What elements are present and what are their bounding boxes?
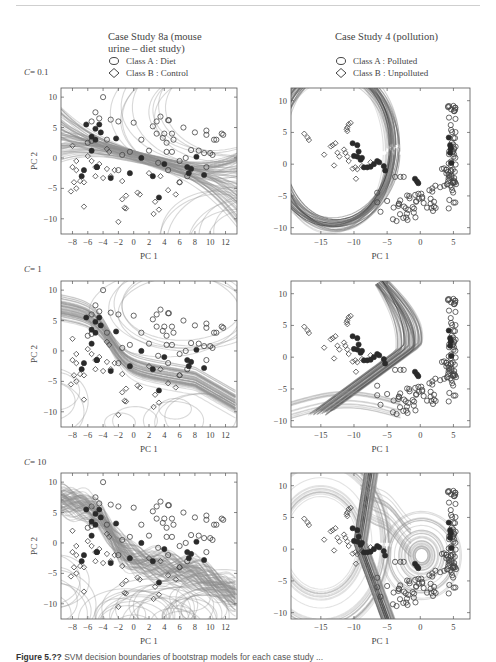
scatter-panel: −8−6−4−2024681012−10−50510PC 1PC 2 <box>21 88 257 274</box>
y-tick-label: −10 <box>274 416 287 426</box>
scatter-panel: −15−10−505−10−50510PC 1 <box>251 281 490 467</box>
x-tick-label: 2 <box>147 237 151 247</box>
y-tick-label: −5 <box>278 384 287 394</box>
y-tick-label: −5 <box>278 576 287 586</box>
legend-label: Class A : Polluted <box>353 55 417 67</box>
x-tick-label: −10 <box>347 237 360 247</box>
x-tick-label: −10 <box>347 622 360 632</box>
y-tick-label: −5 <box>48 376 57 386</box>
x-tick-label: 6 <box>177 622 181 632</box>
decision-boundaries <box>1 258 274 452</box>
page-top-rule <box>16 5 480 6</box>
x-tick-label: −8 <box>68 622 77 632</box>
scatter-panel: −15−10−505−10−50510PC 1 <box>251 473 490 659</box>
figure-caption: Figure 5.?? SVM decision boundaries of b… <box>16 652 323 662</box>
x-tick-label: 0 <box>418 237 422 247</box>
x-tick-label: −5 <box>383 622 392 632</box>
x-tick-label: −15 <box>314 430 327 440</box>
x-tick-label: −4 <box>99 430 109 440</box>
y-tick-label: 10 <box>279 289 288 299</box>
y-tick-label: 5 <box>53 123 57 133</box>
legend-item-class-b: Class B : Control <box>108 67 188 79</box>
y-tick-label: 10 <box>49 285 58 295</box>
legend-left: Class A : Diet Class B : Control <box>108 55 188 79</box>
column-title-line1: Case Study 8a (mouse <box>108 31 202 43</box>
y-tick-label: −10 <box>44 407 57 417</box>
column-title-right: Case Study 4 (pollution) <box>335 31 438 43</box>
y-tick-label: −10 <box>274 223 287 233</box>
diamond-marker-icon <box>108 68 120 78</box>
x-tick-label: 0 <box>132 237 136 247</box>
x-tick-label: 10 <box>206 430 215 440</box>
y-tick-label: 0 <box>283 544 287 554</box>
y-tick-label: 10 <box>49 477 58 487</box>
x-axis-label: PC 1 <box>372 636 390 646</box>
y-tick-label: 0 <box>53 346 57 356</box>
x-axis-label: PC 1 <box>372 251 390 261</box>
circle-marker-icon <box>108 56 120 66</box>
x-tick-label: −15 <box>314 237 327 247</box>
y-tick-label: 0 <box>53 538 57 548</box>
y-tick-label: −5 <box>48 568 57 578</box>
y-axis-label: PC 2 <box>29 345 39 363</box>
x-tick-label: −2 <box>114 237 123 247</box>
y-tick-label: −5 <box>48 183 57 193</box>
y-tick-label: 5 <box>283 320 287 330</box>
x-tick-label: 8 <box>193 237 197 247</box>
y-tick-label: 10 <box>49 92 58 102</box>
x-tick-label: −4 <box>99 622 109 632</box>
legend-label: Class A : Diet <box>126 55 176 67</box>
x-tick-label: 0 <box>132 430 136 440</box>
column-title-left: Case Study 8a (mouse urine – diet study) <box>108 31 202 55</box>
x-tick-label: 6 <box>177 237 181 247</box>
x-tick-label: −6 <box>83 237 92 247</box>
circle-marker-icon <box>335 56 347 66</box>
scatter-panel: −8−6−4−2024681012−10−50510PC 1PC 2 <box>21 281 257 467</box>
y-tick-label: 0 <box>283 352 287 362</box>
x-tick-label: −8 <box>68 430 77 440</box>
x-tick-label: 8 <box>193 430 197 440</box>
legend-item-class-b: Class B : Unpolluted <box>335 67 428 79</box>
x-tick-label: 12 <box>221 622 230 632</box>
x-tick-label: 12 <box>221 430 230 440</box>
legend-label: Class B : Unpolluted <box>353 67 428 79</box>
x-tick-label: 5 <box>451 237 455 247</box>
x-tick-label: 12 <box>221 237 230 247</box>
y-axis-label: PC 2 <box>29 537 39 555</box>
y-tick-label: 0 <box>283 159 287 169</box>
x-tick-label: 0 <box>418 622 422 632</box>
x-tick-label: 2 <box>147 622 151 632</box>
x-tick-label: 0 <box>418 430 422 440</box>
y-tick-label: −10 <box>44 214 57 224</box>
scatter-panel: −8−6−4−2024681012−10−50510PC 1PC 2 <box>21 473 257 659</box>
legend-label: Class B : Control <box>126 67 188 79</box>
y-tick-label: 5 <box>53 316 57 326</box>
x-axis-label: PC 1 <box>140 251 158 261</box>
x-tick-label: 0 <box>132 622 136 632</box>
scatter-panel: −15−10−505−10−50510PC 1 <box>251 88 490 274</box>
y-tick-label: 5 <box>283 127 287 137</box>
y-tick-label: 10 <box>279 481 288 491</box>
y-tick-label: 5 <box>53 508 57 518</box>
column-title-line2: urine – diet study) <box>108 43 202 55</box>
x-tick-label: 2 <box>147 430 151 440</box>
x-tick-label: 5 <box>451 622 455 632</box>
x-tick-label: −2 <box>114 622 123 632</box>
x-tick-label: 10 <box>206 622 215 632</box>
x-tick-label: 4 <box>162 430 167 440</box>
x-tick-label: 8 <box>193 622 197 632</box>
y-tick-label: −5 <box>278 191 287 201</box>
x-tick-label: 6 <box>177 430 181 440</box>
y-tick-label: 0 <box>53 153 57 163</box>
x-tick-label: −6 <box>83 622 92 632</box>
x-tick-label: 10 <box>206 237 215 247</box>
y-tick-label: −10 <box>44 599 57 609</box>
x-tick-label: −5 <box>383 237 392 247</box>
column-title-line1: Case Study 4 (pollution) <box>335 31 438 43</box>
legend-item-class-a: Class A : Diet <box>108 55 188 67</box>
legend-item-class-a: Class A : Polluted <box>335 55 428 67</box>
x-tick-label: 4 <box>162 237 167 247</box>
x-tick-label: −4 <box>99 237 109 247</box>
diamond-marker-icon <box>335 68 347 78</box>
y-tick-label: 10 <box>279 96 288 106</box>
